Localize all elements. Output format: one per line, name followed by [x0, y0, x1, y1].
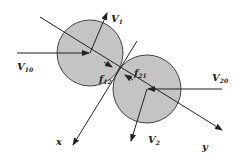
v1-label: V1	[111, 13, 123, 25]
v2-label: V2	[148, 134, 160, 146]
collision-diagram: V1 V10 f12 f21 V20 V2 x y	[0, 0, 238, 161]
v20-label: V20	[212, 72, 229, 84]
v10-label: V10	[17, 61, 34, 73]
x-axis-label: x	[55, 136, 63, 147]
y-axis-label: y	[201, 141, 209, 152]
